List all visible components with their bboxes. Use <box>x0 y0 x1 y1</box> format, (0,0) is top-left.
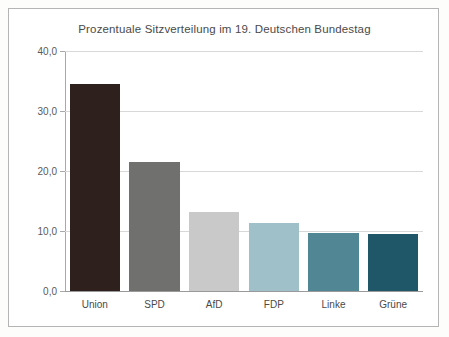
axis-tick-mark <box>60 51 65 52</box>
bar-spd <box>129 162 179 291</box>
value-axis-tick-label: 40,0 <box>38 46 57 57</box>
chart-title: Prozentuale Sitzverteilung im 19. Deutsc… <box>9 23 440 35</box>
category-label-afd: AfD <box>206 299 223 310</box>
bar-grüne <box>368 234 418 291</box>
chart-card: Prozentuale Sitzverteilung im 19. Deutsc… <box>8 8 439 327</box>
category-label-union: Union <box>82 299 108 310</box>
plot-area <box>65 51 423 291</box>
axis-tick-mark <box>60 111 65 112</box>
bar-union <box>70 84 120 291</box>
bar-fdp <box>249 223 299 291</box>
value-axis-tick-label: 10,0 <box>38 226 57 237</box>
category-label-fdp: FDP <box>264 299 284 310</box>
gridline <box>65 51 423 52</box>
bar-linke <box>308 233 358 291</box>
axis-tick-mark <box>60 231 65 232</box>
bar-afd <box>189 212 239 291</box>
category-label-spd: SPD <box>144 299 165 310</box>
value-axis-tick-label: 0,0 <box>43 286 57 297</box>
plot-region: 40,030,020,010,00,0 UnionSPDAfDFDPLinkeG… <box>65 51 423 333</box>
axis-tick-mark <box>60 291 65 292</box>
gridline <box>65 291 423 292</box>
category-label-grüne: Grüne <box>379 299 407 310</box>
value-axis-tick-label: 30,0 <box>38 106 57 117</box>
axis-tick-mark <box>60 171 65 172</box>
category-label-linke: Linke <box>322 299 346 310</box>
value-axis-tick-label: 20,0 <box>38 166 57 177</box>
